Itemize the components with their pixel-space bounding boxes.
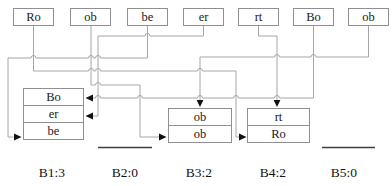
arrowhead-be xyxy=(14,134,22,141)
arrowhead-rt xyxy=(274,100,281,107)
bucket-b3-stack: ob ob xyxy=(168,108,232,143)
bucket-b3-slot-ob-top: ob xyxy=(168,108,232,126)
arrowhead-ro xyxy=(239,134,247,141)
bucket-b1-slot-er: er xyxy=(23,105,84,123)
key-box-bo: Bo xyxy=(293,8,334,26)
bucket-label-b5: B5:0 xyxy=(316,165,372,181)
bucket-b4-slot-rt: rt xyxy=(247,108,310,126)
bucket-b1-slot-bo: Bo xyxy=(23,88,84,106)
bucket-b1-slot-be: be xyxy=(23,122,84,140)
arrowhead-ob2 xyxy=(159,134,167,141)
wire-er-bus xyxy=(98,34,204,37)
arrowhead-ob7 xyxy=(197,100,204,107)
wire-ob2 xyxy=(91,26,159,137)
arrowhead-bo xyxy=(86,95,94,102)
wire-rt xyxy=(259,26,278,101)
key-box-be: be xyxy=(127,8,168,26)
key-box-ob1: ob xyxy=(70,8,111,26)
bucket-b4-stack: rt Ro xyxy=(247,108,310,143)
bucket-b3-slot-ob-bottom: ob xyxy=(168,125,232,143)
hash-diagram: Ro ob be er rt Bo ob Bo er be ob ob rt R… xyxy=(0,0,392,186)
key-box-er: er xyxy=(183,8,224,26)
bucket-label-b2: B2:0 xyxy=(97,165,153,181)
bucket-b4-slot-ro: Ro xyxy=(247,125,310,143)
key-box-rt: rt xyxy=(238,8,279,26)
bucket-label-b1: B1:3 xyxy=(24,165,80,181)
wire-ob7-bus xyxy=(200,55,369,57)
wire-be-drop xyxy=(8,58,14,137)
bucket-b1-stack: Bo er be xyxy=(23,88,84,140)
bucket-label-b3: B3:2 xyxy=(171,165,227,181)
wire-er-drop xyxy=(93,36,99,116)
wire-bo-bus xyxy=(93,96,314,99)
wire-be-bus xyxy=(8,56,148,59)
key-box-ro: Ro xyxy=(13,8,54,26)
bucket-label-b4: B4:2 xyxy=(245,165,301,181)
key-box-ob2: ob xyxy=(348,8,389,26)
arrowhead-er xyxy=(86,113,94,120)
